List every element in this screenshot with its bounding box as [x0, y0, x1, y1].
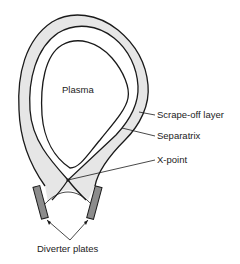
label-scrape-off-layer: Scrape-off layer: [157, 109, 224, 120]
label-x-point: X-point: [157, 154, 187, 165]
tokamak-diagram: Plasma Scrape-off layer Separatrix X-poi…: [0, 0, 240, 264]
arrow-head-left: [47, 220, 51, 225]
leader-diverter-left: [47, 220, 70, 240]
label-diverter-plates: Diverter plates: [37, 243, 98, 254]
label-separatrix: Separatrix: [157, 130, 201, 141]
label-plasma: Plasma: [62, 84, 94, 95]
x-point-marker: [66, 178, 69, 181]
